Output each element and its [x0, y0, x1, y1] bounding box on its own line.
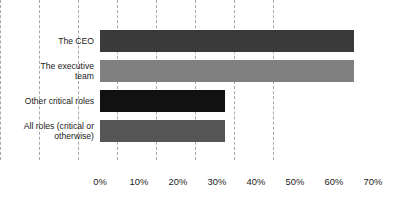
bar	[100, 60, 354, 82]
plot-area	[100, 15, 373, 157]
x-tick-label: 50%	[275, 176, 315, 188]
value-axis: 0%10%20%30%40%50%60%70%	[0, 176, 395, 192]
bar	[100, 90, 225, 112]
x-tick-label: 30%	[197, 176, 237, 188]
category-axis: The CEOThe executive teamOther critical …	[0, 15, 97, 157]
x-tick-label: 40%	[236, 176, 276, 188]
bar-series	[100, 15, 373, 157]
category-label: The executive team	[0, 61, 94, 81]
x-tick-label: 20%	[158, 176, 198, 188]
category-label: The CEO	[0, 36, 94, 46]
category-label: All roles (critical or otherwise)	[0, 121, 94, 141]
bar	[100, 120, 225, 142]
x-tick-label: 70%	[353, 176, 393, 188]
x-tick-label: 60%	[314, 176, 354, 188]
x-tick-label: 0%	[80, 176, 120, 188]
category-label: Other critical roles	[0, 96, 94, 106]
x-tick-label: 10%	[119, 176, 159, 188]
bar	[100, 30, 354, 52]
bar-chart: The CEOThe executive teamOther critical …	[0, 0, 395, 201]
